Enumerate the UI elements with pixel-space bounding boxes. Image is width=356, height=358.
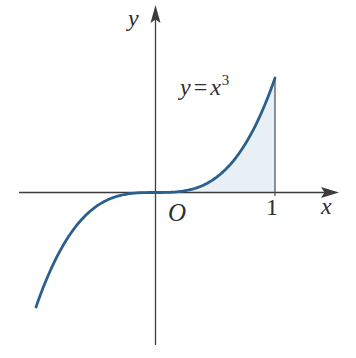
y-axis-label: y (128, 6, 139, 30)
cubic-function-figure: y x O 1 y=x3 (0, 0, 356, 358)
x-axis-label: x (321, 194, 332, 218)
equation-lhs: y (180, 74, 191, 100)
x-tick-label-1: 1 (266, 195, 278, 219)
plot-canvas (0, 0, 356, 358)
origin-label: O (168, 200, 186, 225)
equation-label: y=x3 (180, 75, 228, 99)
equation-rhs-base: x (210, 74, 221, 100)
equation-equals-sign: = (194, 74, 208, 100)
equation-rhs-exponent: 3 (222, 72, 230, 88)
